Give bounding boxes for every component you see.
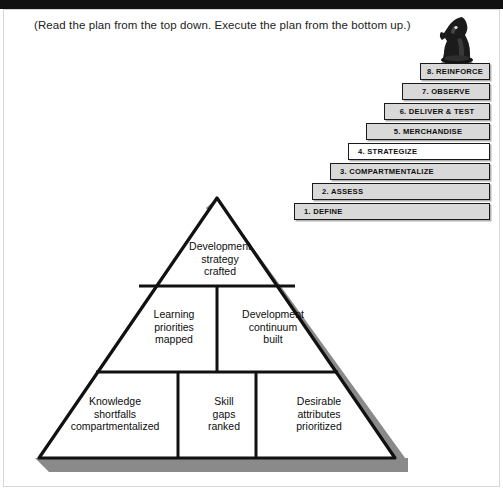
top-black-bar	[0, 0, 503, 9]
step-label: 6. DELIVER & TEST	[385, 107, 489, 116]
step-6-deliver-and-test[interactable]: 6. DELIVER & TEST	[384, 103, 490, 120]
step-label: 4. STRATEGIZE	[349, 147, 417, 156]
step-label: 8. REINFORCE	[421, 67, 489, 76]
step-5-merchandise[interactable]: 5. MERCHANDISE	[366, 123, 490, 140]
pyramid-cell-middle-left: Learning priorities mapped	[128, 308, 220, 346]
step-8-reinforce[interactable]: 8. REINFORCE	[420, 63, 490, 80]
step-label: 3. COMPARTMENTALIZE	[331, 167, 434, 176]
pyramid-cell-base-middle: Skill gaps ranked	[185, 395, 263, 433]
pyramid-cell-base-left: Knowledge shortfalls compartmentalized	[50, 395, 180, 433]
pyramid-cell-base-right: Desirable attributes prioritized	[268, 395, 370, 433]
pyramid-cell-apex: Development strategy crafted	[160, 240, 280, 278]
step-3-compartmentalize[interactable]: 3. COMPARTMENTALIZE	[330, 163, 490, 180]
step-7-observe[interactable]: 7. OBSERVE	[402, 83, 490, 100]
page-canvas: (Read the plan from the top down. Execut…	[0, 0, 503, 490]
pyramid-cell-middle-right: Development continuum built	[218, 308, 328, 346]
pyramid-shadow-bottom	[35, 458, 408, 472]
step-label: 7. OBSERVE	[403, 87, 489, 96]
page-caption: (Read the plan from the top down. Execut…	[34, 19, 434, 31]
step-4-strategize[interactable]: 4. STRATEGIZE	[348, 143, 490, 160]
step-label: 5. MERCHANDISE	[367, 127, 489, 136]
